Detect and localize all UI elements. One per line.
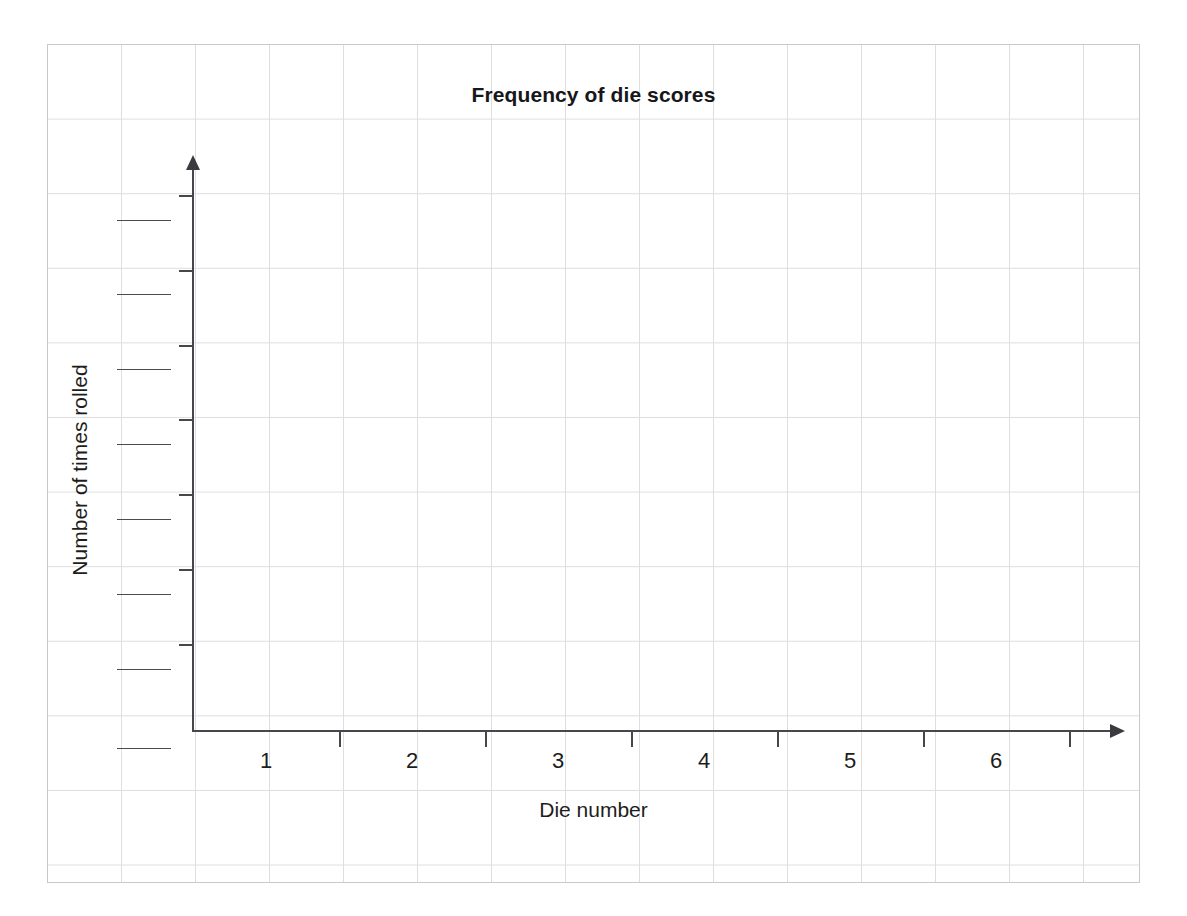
y-axis-arrow-icon <box>186 155 200 170</box>
x-axis-tick-label: 3 <box>538 748 578 774</box>
y-axis-title: Number of times rolled <box>68 320 92 620</box>
x-axis-tick <box>339 731 341 747</box>
y-value-blank-line[interactable] <box>117 594 171 595</box>
y-value-blank-line[interactable] <box>117 748 171 749</box>
y-axis-tick <box>179 644 194 646</box>
x-axis-tick-label: 4 <box>684 748 724 774</box>
x-axis-tick <box>923 731 925 747</box>
y-axis-tick <box>179 195 194 197</box>
y-axis-tick <box>179 345 194 347</box>
x-axis-arrow-icon <box>1110 724 1125 738</box>
x-axis-tick <box>777 731 779 747</box>
x-axis-tick <box>485 731 487 747</box>
x-axis-tick-label: 5 <box>830 748 870 774</box>
y-value-blank-line[interactable] <box>117 220 171 221</box>
x-axis-tick-label: 6 <box>976 748 1016 774</box>
chart-title: Frequency of die scores <box>0 83 1187 107</box>
y-value-blank-line[interactable] <box>117 519 171 520</box>
y-value-blank-line[interactable] <box>117 444 171 445</box>
x-axis-line <box>193 730 1115 732</box>
y-value-blank-line[interactable] <box>117 369 171 370</box>
y-axis-line <box>192 167 194 732</box>
y-axis-tick <box>179 569 194 571</box>
x-axis-tick-label: 1 <box>246 748 286 774</box>
y-value-blank-line[interactable] <box>117 669 171 670</box>
x-axis-tick-label: 2 <box>392 748 432 774</box>
y-axis-tick <box>179 270 194 272</box>
x-axis-tick <box>1069 731 1071 747</box>
y-axis-tick <box>179 494 194 496</box>
y-axis-tick <box>179 419 194 421</box>
y-value-blank-line[interactable] <box>117 294 171 295</box>
worksheet-page: Frequency of die scores 1 2 3 4 5 6 Die … <box>0 0 1187 916</box>
x-axis-tick <box>631 731 633 747</box>
x-axis-title: Die number <box>0 798 1187 822</box>
